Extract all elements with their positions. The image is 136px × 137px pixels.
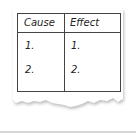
bottom-rule	[0, 131, 136, 133]
effect-item-2: 2.	[71, 64, 81, 75]
cause-effect-table: Cause Effect 1. 1. 2. 2.	[17, 13, 121, 92]
header-divider	[18, 32, 120, 33]
header-effect: Effect	[70, 17, 99, 28]
effect-item-1: 1.	[71, 40, 81, 51]
column-divider	[64, 14, 65, 91]
header-cause: Cause	[24, 17, 55, 28]
cause-item-2: 2.	[25, 64, 35, 75]
cause-item-1: 1.	[25, 40, 35, 51]
